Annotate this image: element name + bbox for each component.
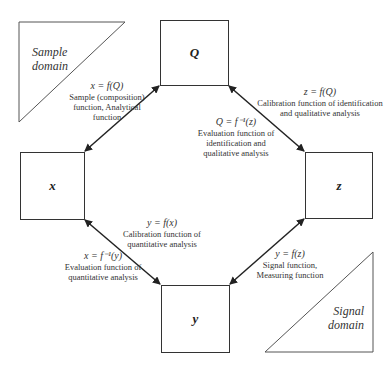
desc-z-y-2: Measuring function [250,270,330,280]
node-x-label: x [49,178,56,194]
desc-x-y-inverse-2: quantitative analysis [58,272,148,282]
node-y: y [161,285,230,353]
label-q-z-inverse: Q = f⁻¹(z) Evaluation function of identi… [186,116,286,158]
signal-domain-label: Signal domain [328,304,364,332]
sample-domain-line2: domain [32,59,68,73]
label-x-y-inverse: x = f⁻¹(y) Evaluation function of quanti… [58,250,148,282]
node-y-label: y [193,311,199,327]
diagram-canvas: Sample domain Signal domain Q x z y x = … [0,0,392,369]
label-x-q: x = f(Q) Sample (composition) function, … [52,80,162,122]
node-z-label: z [336,178,341,194]
node-z: z [305,152,373,219]
equation-q-z-inverse: Q = f⁻¹(z) [186,116,286,128]
equation-q-z-forward: z = f(Q) [255,86,385,98]
desc-x-y-forward-2: quantitative analysis [112,239,212,249]
signal-domain-line1: Signal [328,304,364,318]
sample-domain-label: Sample domain [32,45,68,73]
node-q-label: Q [190,45,199,61]
label-q-z-forward: z = f(Q) Calibration function of identif… [255,86,385,118]
sample-domain-line1: Sample [32,45,68,59]
label-x-y-forward: y = f(x) Calibration function of quantit… [112,217,212,249]
desc-x-q-2: function, Analytical [52,102,162,112]
label-z-y: y = f(z) Signal function, Measuring func… [250,248,330,280]
equation-z-y: y = f(z) [250,248,330,260]
node-x: x [20,152,85,220]
desc-q-z-inverse-2: identification and [186,138,286,148]
desc-q-z-forward-1: Calibration function of identification [255,98,385,108]
desc-x-q-3: function [52,112,162,122]
equation-x-y-forward: y = f(x) [112,217,212,229]
desc-x-y-forward-1: Calibration function of [112,229,212,239]
desc-q-z-inverse-3: qualitative analysis [186,148,286,158]
equation-x-q: x = f(Q) [52,80,162,92]
equation-x-y-inverse: x = f⁻¹(y) [58,250,148,262]
node-q: Q [160,20,229,86]
signal-domain-line2: domain [328,318,364,332]
desc-x-q-1: Sample (composition) [52,92,162,102]
desc-z-y-1: Signal function, [250,260,330,270]
desc-q-z-inverse-1: Evaluation function of [186,128,286,138]
desc-x-y-inverse-1: Evaluation function of [58,262,148,272]
